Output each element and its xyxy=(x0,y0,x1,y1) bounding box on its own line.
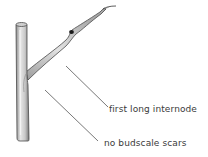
side-branch xyxy=(26,6,116,80)
twig-illustration xyxy=(0,0,208,157)
label-first-long-internode: first long internode xyxy=(109,105,197,114)
leader-line-budscale xyxy=(45,90,98,141)
main-stem xyxy=(16,23,29,142)
bud-icon xyxy=(69,30,74,34)
label-no-budscale-scars: no budscale scars xyxy=(104,139,187,148)
twig-diagram: first long internode no budscale scars xyxy=(0,0,208,157)
leader-line-internode xyxy=(66,66,108,107)
